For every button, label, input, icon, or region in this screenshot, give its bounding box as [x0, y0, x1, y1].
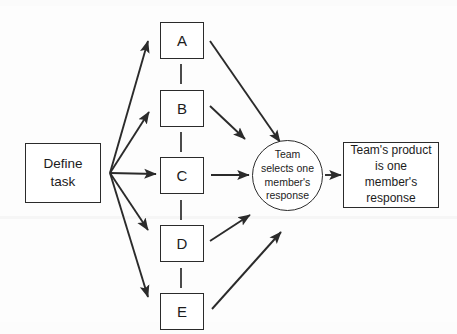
node-team-selects-line-3: member's: [261, 176, 314, 190]
connector-define-to-b: [110, 112, 149, 173]
node-define-task-label: Definetask: [43, 155, 82, 191]
node-member-e-label: E: [177, 303, 187, 320]
connector-e-to-selection: [212, 232, 281, 309]
node-define-task[interactable]: Definetask: [25, 143, 101, 203]
node-member-c[interactable]: C: [160, 157, 204, 194]
node-team-product[interactable]: Team's product is one member's response: [343, 142, 439, 208]
diagram-canvas: Definetask A B C D E Team selects one me…: [0, 0, 457, 334]
node-team-selects-line-1: Team: [261, 148, 314, 162]
node-member-e[interactable]: E: [160, 293, 204, 330]
connector-d-to-selection: [210, 215, 250, 241]
node-team-selects-label: Team selects one member's response: [261, 148, 314, 203]
node-team-product-line-2: is one member's: [348, 159, 434, 191]
node-team-selects[interactable]: Team selects one member's response: [252, 140, 323, 211]
node-team-product-line-3: response: [348, 191, 434, 207]
node-member-a-label: A: [177, 32, 187, 49]
node-member-d-label: D: [176, 235, 187, 252]
node-team-product-line-1: Team's product: [348, 143, 434, 159]
node-team-selects-line-2: selects one: [261, 162, 314, 176]
connector-define-to-c: [110, 173, 156, 174]
connector-define-to-a: [110, 41, 148, 173]
node-member-d[interactable]: D: [160, 225, 204, 262]
node-team-product-label: Team's product is one member's response: [348, 143, 434, 206]
connector-define-to-d: [110, 173, 148, 230]
connector-define-to-e: [110, 173, 148, 297]
node-member-c-label: C: [176, 167, 187, 184]
node-member-a[interactable]: A: [160, 22, 204, 59]
node-team-selects-line-4: response: [261, 189, 314, 203]
node-member-b[interactable]: B: [160, 90, 204, 127]
connector-a-to-selection: [210, 41, 280, 142]
connector-b-to-selection: [210, 106, 245, 139]
node-member-b-label: B: [177, 100, 187, 117]
